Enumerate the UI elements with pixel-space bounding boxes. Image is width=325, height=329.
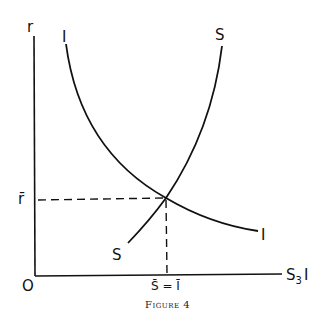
savings-top-label: S bbox=[215, 26, 225, 44]
y-axis bbox=[34, 36, 35, 276]
x-axis bbox=[35, 274, 282, 276]
x-axis-label-main: S bbox=[286, 266, 296, 284]
x-axis-label: S3I bbox=[286, 266, 308, 286]
y-axis-label: r bbox=[27, 18, 34, 36]
savings-curve bbox=[128, 46, 222, 243]
x-axis-label-sub: 3 bbox=[296, 275, 302, 286]
equilibrium-rate-label: r̄ bbox=[18, 190, 25, 208]
x-axis-label-tail: I bbox=[304, 266, 308, 284]
equilibrium-quantity-label: S̄ = Ī bbox=[151, 279, 180, 293]
equilibrium-rate-guide bbox=[38, 198, 164, 200]
equilibrium-quantity-guide bbox=[166, 200, 167, 274]
investment-bottom-label: I bbox=[261, 226, 265, 244]
investment-top-label: I bbox=[62, 28, 66, 46]
origin-label: O bbox=[22, 277, 34, 295]
figure-canvas: r O r̄ S̄ = Ī I I S S S3I Figure 4 bbox=[0, 0, 325, 329]
savings-bottom-label: S bbox=[112, 246, 122, 264]
figure-caption: Figure 4 bbox=[145, 299, 190, 310]
